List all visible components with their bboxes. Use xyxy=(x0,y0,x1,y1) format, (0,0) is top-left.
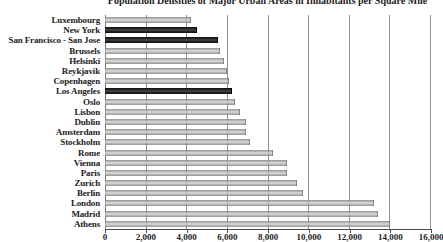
axis-tick-label: 0 xyxy=(103,232,108,242)
value-axis: 02,0004,0006,0008,00010,00012,00014,0001… xyxy=(105,229,431,241)
bar-luxembourg xyxy=(105,17,191,23)
category-label-copenhagen: Copenhagen xyxy=(0,76,102,86)
category-label-paris: Paris xyxy=(0,168,102,178)
bar-vienna xyxy=(105,160,287,166)
category-label-luxembourg: Luxembourg xyxy=(0,15,102,25)
bar-row xyxy=(105,107,430,117)
bar-row xyxy=(105,76,430,86)
bar-row xyxy=(105,188,430,198)
bar-stockholm xyxy=(105,139,250,145)
axis-tick-label: 16,000 xyxy=(419,232,443,242)
bar-london xyxy=(105,200,374,206)
bar-row xyxy=(105,127,430,137)
chart-title: Population Densities of Major Urban Area… xyxy=(105,0,430,7)
category-label-zurich: Zurich xyxy=(0,178,102,188)
category-label-dublin: Dublin xyxy=(0,117,102,127)
category-label-brussels: Brussels xyxy=(0,46,102,56)
bar-brussels xyxy=(105,48,220,54)
bar-row xyxy=(105,56,430,66)
bar-athens xyxy=(105,221,390,227)
axis-tick-label: 4,000 xyxy=(176,232,196,242)
bar-row xyxy=(105,168,430,178)
category-label-lisbon: Lisbon xyxy=(0,107,102,117)
category-label-rome: Rome xyxy=(0,147,102,157)
category-label-athens: Athens xyxy=(0,219,102,229)
category-label-stockholm: Stockholm xyxy=(0,137,102,147)
category-label-helsinki: Helsinki xyxy=(0,56,102,66)
bar-madrid xyxy=(105,211,378,217)
bar-row xyxy=(105,209,430,219)
bar-row xyxy=(105,219,430,229)
bar-row xyxy=(105,147,430,157)
axis-tick-label: 6,000 xyxy=(217,232,237,242)
bar-row xyxy=(105,97,430,107)
bar-new-york xyxy=(105,27,197,33)
bar-row xyxy=(105,117,430,127)
bar-los-angeles xyxy=(105,88,232,94)
bar-dublin xyxy=(105,119,246,125)
plot-area xyxy=(105,15,430,229)
bar-series xyxy=(105,15,430,229)
bar-zurich xyxy=(105,180,297,186)
category-axis: LuxembourgNew YorkSan Francisco - San Jo… xyxy=(0,15,102,229)
bar-berlin xyxy=(105,190,303,196)
category-label-vienna: Vienna xyxy=(0,158,102,168)
gridline xyxy=(430,15,431,229)
category-label-oslo: Oslo xyxy=(0,97,102,107)
bar-paris xyxy=(105,170,287,176)
category-label-amsterdam: Amsterdam xyxy=(0,127,102,137)
axis-tick-label: 10,000 xyxy=(296,232,321,242)
bar-row xyxy=(105,66,430,76)
bar-row xyxy=(105,198,430,208)
bar-row xyxy=(105,158,430,168)
axis-tick-label: 14,000 xyxy=(378,232,403,242)
bar-row xyxy=(105,15,430,25)
category-label-reykjavik: Reykjavik xyxy=(0,66,102,76)
bar-row xyxy=(105,35,430,45)
bar-row xyxy=(105,25,430,35)
bar-row xyxy=(105,178,430,188)
category-label-san-francisco-san-jose: San Francisco - San Jose xyxy=(0,35,102,45)
axis-tick-label: 12,000 xyxy=(337,232,362,242)
category-label-new-york: New York xyxy=(0,25,102,35)
category-label-london: London xyxy=(0,198,102,208)
category-label-los-angeles: Los Angeles xyxy=(0,86,102,96)
axis-tick-label: 2,000 xyxy=(136,232,156,242)
bar-reykjavik xyxy=(105,68,227,74)
category-label-berlin: Berlin xyxy=(0,188,102,198)
bar-row xyxy=(105,137,430,147)
bar-lisbon xyxy=(105,109,240,115)
axis-tick-label: 8,000 xyxy=(258,232,278,242)
bar-rome xyxy=(105,150,273,156)
bar-copenhagen xyxy=(105,78,229,84)
bar-row xyxy=(105,46,430,56)
bar-helsinki xyxy=(105,58,224,64)
category-label-madrid: Madrid xyxy=(0,209,102,219)
bar-oslo xyxy=(105,99,235,105)
bar-row xyxy=(105,86,430,96)
bar-san-francisco-san-jose xyxy=(105,37,218,43)
bar-amsterdam xyxy=(105,129,246,135)
